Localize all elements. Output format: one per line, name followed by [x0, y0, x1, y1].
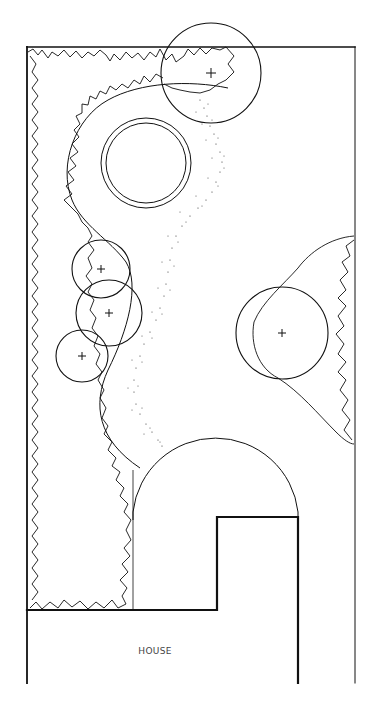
right-shrub-bed: [253, 236, 354, 444]
house-outline: [27, 517, 298, 683]
left-hedge: [28, 49, 163, 609]
lawn-edge: [67, 84, 228, 468]
tree-center-marks: [78, 68, 286, 360]
top-tree-foliage: [160, 47, 234, 93]
gravel-path: [128, 99, 225, 446]
tree-canopies: [56, 23, 328, 382]
patio: [133, 438, 298, 520]
pond: [101, 118, 191, 208]
garden-plan: [0, 0, 379, 714]
house-label: HOUSE: [127, 646, 183, 656]
property-boundary: [27, 47, 355, 683]
